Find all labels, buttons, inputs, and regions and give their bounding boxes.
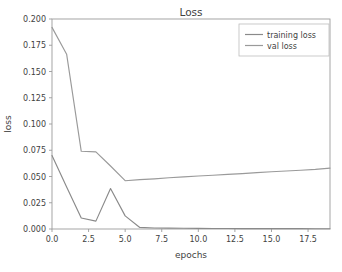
y-tick-label: 0.125	[23, 94, 46, 103]
y-tick-label: 0.075	[23, 146, 46, 155]
y-axis-label: loss	[3, 115, 13, 133]
x-axis-label: epochs	[175, 250, 207, 260]
x-tick-label: 15.0	[263, 235, 281, 244]
legend-label: val loss	[267, 42, 297, 51]
page-caption-partial	[0, 266, 342, 272]
y-tick-label: 0.200	[23, 15, 46, 24]
loss-line-chart: Loss 0.02.55.07.510.012.515.017.5 0.0000…	[0, 0, 342, 272]
legend-label: training loss	[267, 31, 316, 40]
y-tick-label: 0.050	[23, 173, 46, 182]
x-tick-label: 12.5	[226, 235, 244, 244]
x-tick-label: 2.5	[82, 235, 95, 244]
y-tick-label: 0.025	[23, 199, 46, 208]
y-tick-label: 0.100	[23, 120, 46, 129]
x-tick-label: 7.5	[155, 235, 168, 244]
y-axis-tick-labels: 0.0000.0250.0500.0750.1000.1250.1500.175…	[23, 15, 46, 234]
x-tick-label: 17.5	[299, 235, 317, 244]
y-tick-label: 0.000	[23, 225, 46, 234]
x-tick-label: 10.0	[189, 235, 207, 244]
figure-container: Loss 0.02.55.07.510.012.515.017.5 0.0000…	[0, 0, 342, 272]
chart-legend: training lossval loss	[239, 24, 329, 56]
x-tick-label: 5.0	[119, 235, 132, 244]
chart-title: Loss	[179, 6, 202, 18]
x-tick-label: 0.0	[46, 235, 59, 244]
y-tick-label: 0.150	[23, 68, 46, 77]
y-tick-label: 0.175	[23, 41, 46, 50]
